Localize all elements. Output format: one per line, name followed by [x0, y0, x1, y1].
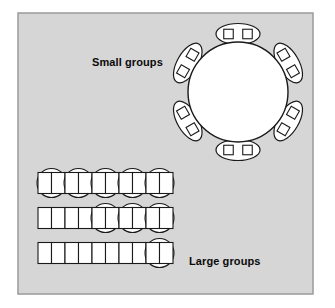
rect-table-cell — [133, 208, 147, 229]
rect-table-cell — [79, 173, 93, 194]
rect-table-cell — [160, 208, 174, 229]
banquet-row-2 — [38, 204, 174, 233]
rect-table-cell — [38, 208, 52, 229]
round-table-top — [188, 42, 288, 142]
rect-table-cell — [79, 208, 93, 229]
chair-seat — [224, 29, 234, 39]
rect-table-cell — [133, 243, 147, 264]
rect-table-cell — [146, 208, 160, 229]
rect-table-cell — [160, 173, 174, 194]
rect-table-cell — [106, 173, 120, 194]
chair-seat — [224, 145, 234, 155]
rect-table-cell — [92, 173, 106, 194]
rect-table-cell — [119, 173, 133, 194]
chair-seat — [243, 29, 253, 39]
banquet-row-1 — [37, 169, 174, 198]
seating-diagram-canvas — [0, 0, 335, 308]
label-small-groups: Small groups — [92, 56, 163, 68]
rect-table-cell — [146, 173, 160, 194]
label-large-groups: Large groups — [189, 255, 261, 267]
rect-table-cell — [52, 173, 66, 194]
rect-table-cell — [65, 173, 79, 194]
rect-table-cell — [92, 243, 106, 264]
banquet-row-3 — [38, 239, 174, 268]
chair-seat — [243, 145, 253, 155]
rect-table-cell — [65, 243, 79, 264]
rect-table-cell — [146, 243, 160, 264]
rect-table-cell — [119, 208, 133, 229]
rect-table-cell — [160, 243, 174, 264]
rect-table-cell — [119, 243, 133, 264]
large-groups-banquet-rows — [37, 169, 174, 268]
rect-table-cell — [79, 243, 93, 264]
rect-table-cell — [65, 208, 79, 229]
rect-table-cell — [38, 243, 52, 264]
rect-table-cell — [92, 208, 106, 229]
rect-table-cell — [38, 173, 52, 194]
rect-table-cell — [52, 243, 66, 264]
rect-table-cell — [52, 208, 66, 229]
seating-arrangement-diagram: Small groups Large groups — [0, 0, 335, 308]
rect-table-cell — [106, 208, 120, 229]
rect-table-cell — [106, 243, 120, 264]
rect-table-cell — [133, 173, 147, 194]
